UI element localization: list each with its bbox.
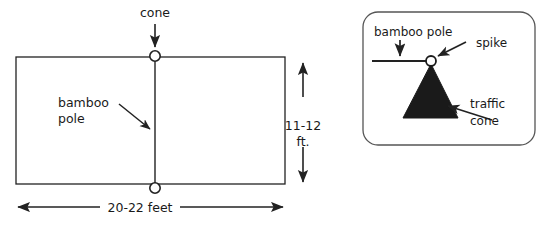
inset-bamboo-pole-label: bamboo pole — [374, 25, 452, 39]
height-dimension-label-line2: ft. — [296, 134, 309, 149]
bamboo-pole-leader-arrow — [119, 104, 150, 129]
cone-marker-top — [150, 51, 160, 61]
diagram-canvas: cone bamboo pole 11-12 ft. 20-22 feet — [0, 0, 545, 227]
spike-marker — [426, 56, 436, 66]
traffic-cone-label-line2: cone — [470, 114, 499, 128]
height-dimension-label-line1: 11-12 — [285, 118, 321, 133]
left-panel-group: cone bamboo pole 11-12 ft. 20-22 feet — [16, 5, 321, 215]
spike-label: spike — [476, 36, 507, 50]
court-rectangle — [16, 57, 285, 184]
traffic-cone-label-line1: traffic — [470, 97, 505, 111]
cone-marker-bottom — [150, 183, 160, 193]
right-panel-group: bamboo pole spike traffic cone — [363, 12, 535, 145]
cone-label: cone — [140, 5, 170, 20]
bamboo-pole-label-line2: pole — [58, 111, 85, 126]
diagram-svg: cone bamboo pole 11-12 ft. 20-22 feet — [0, 0, 545, 227]
bamboo-pole-label-line1: bamboo — [58, 95, 109, 110]
width-dimension-label: 20-22 feet — [108, 200, 173, 215]
